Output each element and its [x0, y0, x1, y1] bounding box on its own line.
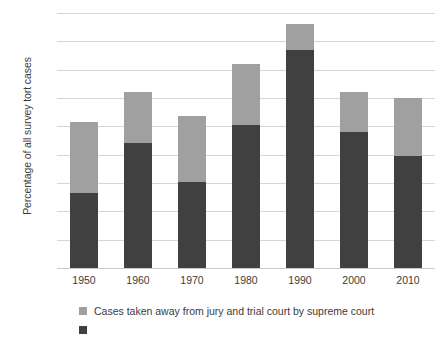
bar-segment-supreme-court — [340, 92, 368, 132]
bar-stack — [340, 92, 368, 268]
bar-segment-supreme-court — [232, 64, 260, 125]
bar-group — [219, 13, 273, 268]
bar-group — [327, 13, 381, 268]
legend-item — [79, 320, 439, 339]
gridline — [57, 268, 435, 269]
x-axis-tick-label: 1980 — [219, 274, 273, 286]
legend-item: Cases taken away from jury and trial cou… — [79, 301, 439, 320]
bar-group — [273, 13, 327, 268]
plot-area: 0%10%20%30%40%50%60%70%80%90% 1950196019… — [57, 13, 435, 268]
x-axis-tick-label: 1950 — [57, 274, 111, 286]
stacked-bar-chart: Percentage of all survey tort cases 0%10… — [0, 0, 442, 345]
bar-stack — [178, 116, 206, 268]
bar-segment-appellate-court — [124, 143, 152, 268]
bar-stack — [394, 98, 422, 268]
bar-segment-appellate-court — [178, 182, 206, 268]
legend-swatch-icon — [79, 326, 87, 334]
bar-segment-supreme-court — [70, 122, 98, 193]
bar-segment-appellate-court — [232, 125, 260, 268]
x-axis-tick-label: 1960 — [111, 274, 165, 286]
x-axis-tick-label: 1970 — [165, 274, 219, 286]
bar-segment-supreme-court — [286, 24, 314, 50]
y-axis-title: Percentage of all survey tort cases — [21, 6, 33, 266]
legend-label: Cases taken away from jury and trial cou… — [94, 305, 374, 317]
x-axis-tick-label: 2010 — [381, 274, 435, 286]
bar-stack — [124, 92, 152, 268]
bar-stack — [286, 24, 314, 268]
bar-group — [381, 13, 435, 268]
bar-group — [111, 13, 165, 268]
bar-segment-appellate-court — [340, 132, 368, 268]
x-axis-tick-label: 1990 — [273, 274, 327, 286]
bar-segment-supreme-court — [394, 98, 422, 156]
bars-layer — [57, 13, 435, 268]
bar-segment-appellate-court — [286, 50, 314, 268]
bar-group — [57, 13, 111, 268]
bar-segment-appellate-court — [70, 193, 98, 268]
bar-segment-appellate-court — [394, 156, 422, 268]
legend-swatch-icon — [79, 307, 87, 315]
chart-legend: Cases taken away from jury and trial cou… — [79, 301, 439, 339]
bar-group — [165, 13, 219, 268]
bar-stack — [232, 64, 260, 268]
bar-segment-supreme-court — [124, 92, 152, 143]
bar-stack — [70, 122, 98, 268]
x-axis-tick-label: 2000 — [327, 274, 381, 286]
bar-segment-supreme-court — [178, 116, 206, 181]
